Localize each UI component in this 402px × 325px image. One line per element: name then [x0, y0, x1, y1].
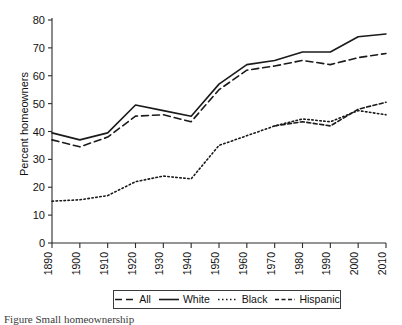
legend-swatch-white-icon	[158, 295, 180, 304]
series-line-white	[52, 34, 386, 140]
x-axis-tick-label: 2000	[348, 252, 360, 276]
x-axis-tick-label: 1900	[70, 252, 82, 276]
legend-item-hispanic: Hispanic	[274, 294, 339, 305]
x-axis-tick-label: 2010	[376, 252, 388, 276]
legend-swatch-hispanic-icon	[274, 295, 296, 304]
series-line-hispanic	[275, 102, 386, 126]
y-axis-tick-label: 50	[33, 98, 45, 110]
data-series-group	[52, 34, 386, 201]
legend-swatch-black-icon	[217, 295, 239, 304]
x-axis-tick-label: 1950	[209, 252, 221, 276]
legend-label: Black	[242, 294, 268, 305]
x-axis-tick-label: 1970	[265, 252, 277, 276]
x-axis-tick-label: 1890	[42, 252, 54, 276]
x-axis-tick-label: 1930	[153, 252, 165, 276]
y-axis-tick-label: 80	[33, 14, 45, 26]
legend-item-all: All	[114, 294, 151, 305]
y-axis-tick-label: 60	[33, 70, 45, 82]
x-axis-tick-label: 1980	[293, 252, 305, 276]
chart-legend: AllWhiteBlackHispanic	[113, 290, 341, 309]
legend-item-white: White	[158, 294, 210, 305]
series-line-black	[52, 111, 386, 202]
legend-label: Hispanic	[299, 294, 339, 305]
y-axis-tick-label: 20	[33, 181, 45, 193]
y-axis-tick-label: 70	[33, 42, 45, 54]
x-axis-tick-label: 1990	[320, 252, 332, 276]
series-line-all	[52, 53, 386, 146]
x-axis: 1890190019101920193019401950196019701980…	[42, 243, 388, 275]
y-axis: 01020304050607080	[33, 14, 52, 249]
y-axis-tick-label: 0	[39, 237, 45, 249]
x-axis-tick-label: 1960	[237, 252, 249, 276]
figure-caption: Figure Small homeownership	[4, 313, 398, 325]
legend-label: White	[183, 294, 210, 305]
legend-swatch-all-icon	[114, 295, 136, 304]
legend-items: AllWhiteBlackHispanic	[114, 294, 339, 305]
legend-label: All	[139, 294, 151, 305]
legend-item-black: Black	[217, 294, 268, 305]
y-axis-tick-label: 10	[33, 209, 45, 221]
x-axis-tick-label: 1910	[98, 252, 110, 276]
y-axis-tick-label: 30	[33, 153, 45, 165]
x-axis-tick-label: 1920	[126, 252, 138, 276]
x-axis-tick-label: 1940	[181, 252, 193, 276]
y-axis-tick-label: 40	[33, 126, 45, 138]
